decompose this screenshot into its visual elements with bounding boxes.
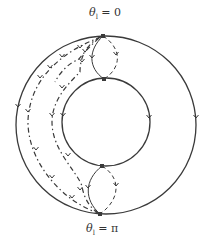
outer-bottom-node bbox=[98, 212, 102, 216]
inner-top-node bbox=[102, 77, 106, 81]
middle-dash-dot-trajectory-arrow-4-icon bbox=[66, 153, 71, 156]
outer-dash-dot-trajectory bbox=[28, 37, 101, 213]
diagram-canvas bbox=[0, 0, 208, 252]
theta-value: = π bbox=[95, 222, 118, 235]
outer-top-node bbox=[101, 34, 105, 38]
theta-pi-label: θl = π bbox=[86, 222, 118, 237]
middle-dash-dot-trajectory-arrow-2-icon bbox=[60, 85, 65, 88]
outer-dash-dot-trajectory-arrow-1-icon bbox=[38, 75, 43, 78]
nodes-group bbox=[98, 34, 106, 216]
middle-dash-dot-trajectory-arrow-5-icon bbox=[78, 187, 83, 190]
bottom-solid-connector-arrow-icon bbox=[86, 185, 91, 188]
outer-dash-dot-trajectory-arrow-2-icon bbox=[26, 109, 31, 112]
outer-dash-dot-trajectory-arrow-3-icon bbox=[34, 147, 39, 150]
circles-group bbox=[16, 36, 196, 214]
theta-symbol: θ bbox=[89, 6, 96, 19]
bottom-dashed-connector bbox=[100, 166, 116, 214]
inner-circle bbox=[62, 78, 150, 166]
outer-dash-dot-trajectory-arrow-4-icon bbox=[50, 175, 55, 178]
middle-dash-dot-trajectory-arrow-0-icon bbox=[83, 49, 88, 52]
inner-bottom-node bbox=[100, 164, 104, 168]
theta-symbol: θ bbox=[86, 222, 93, 235]
theta-zero-label: θl = 0 bbox=[89, 6, 121, 21]
arrowheads-group bbox=[16, 45, 199, 198]
bottom-solid-connector bbox=[88, 166, 102, 214]
theta-value: = 0 bbox=[98, 6, 121, 19]
top-dashed-connector-arrow-icon bbox=[114, 52, 119, 55]
top-solid-connector bbox=[92, 36, 104, 79]
middle-dash-dot-trajectory-arrow-3-icon bbox=[50, 113, 55, 116]
outer-circle bbox=[16, 36, 196, 214]
top-dashed-connector bbox=[103, 36, 117, 79]
